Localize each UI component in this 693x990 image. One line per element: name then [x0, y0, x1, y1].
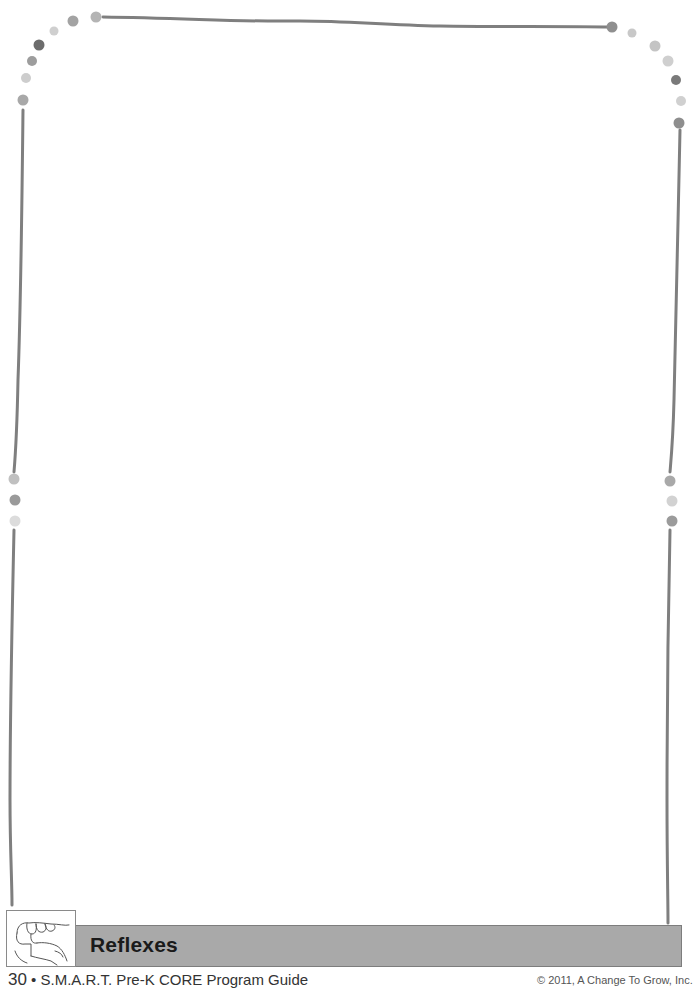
- border-right-upper-line: [670, 130, 680, 472]
- border-right-lower-line: [667, 530, 670, 923]
- border-top-line: [103, 17, 610, 27]
- border-left-upper-line: [14, 110, 23, 472]
- border-left-lower-line: [10, 530, 14, 905]
- footer-separator: •: [31, 971, 36, 988]
- footer-guide-label: 30 • S.M.A.R.T. Pre-K CORE Program Guide: [8, 970, 308, 990]
- border-dots-top-left: [18, 12, 102, 106]
- copyright-notice: © 2011, A Change To Grow, Inc.: [537, 974, 693, 986]
- border-dots-left-middle: [9, 474, 21, 527]
- guide-title: S.M.A.R.T. Pre-K CORE Program Guide: [41, 971, 309, 988]
- border-dots-right-middle: [665, 476, 678, 527]
- hand-gesture-icon: [6, 910, 76, 967]
- section-title-bar: Reflexes: [74, 925, 682, 967]
- page-number: 30: [8, 970, 27, 989]
- section-title: Reflexes: [90, 933, 178, 957]
- border-dots-top-right: [607, 22, 687, 129]
